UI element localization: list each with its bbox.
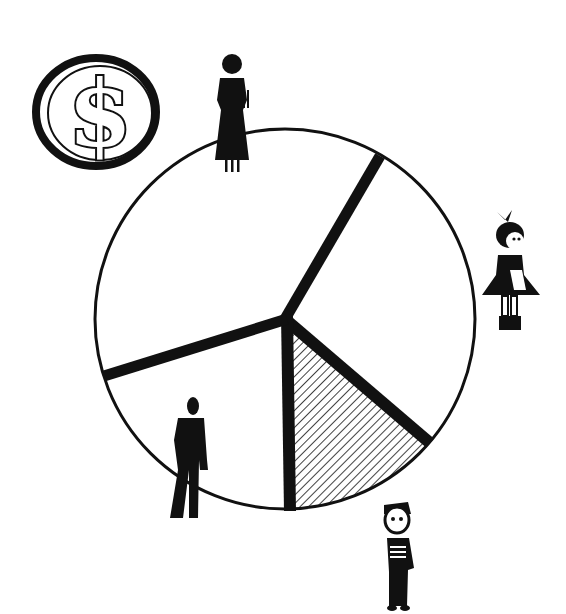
pie-slice-hatched	[285, 319, 429, 509]
pie-chart-illustration: $	[0, 0, 566, 614]
man-figure-icon	[170, 397, 208, 518]
woman-figure-icon	[215, 54, 249, 172]
svg-text:$: $	[68, 60, 132, 168]
girl-figure-icon	[482, 210, 540, 330]
boy-figure-icon	[384, 502, 414, 611]
dollar-coin-icon: $	[36, 58, 156, 168]
